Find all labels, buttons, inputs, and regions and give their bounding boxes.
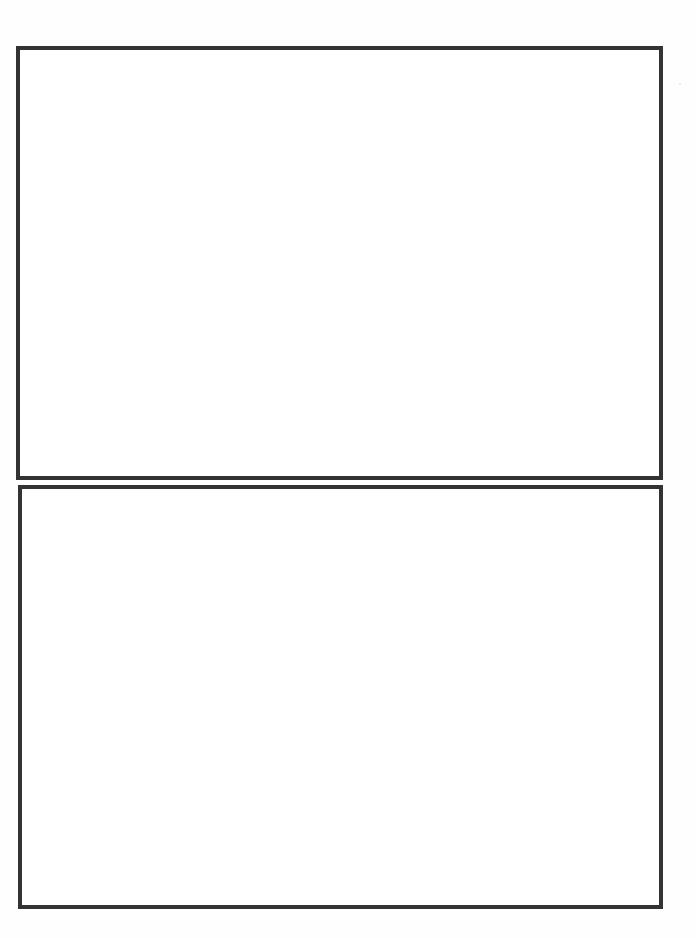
- document-page: [0, 0, 696, 938]
- empty-frame-bottom: [18, 485, 663, 909]
- empty-frame-top: [16, 46, 663, 480]
- scan-artifact: [679, 83, 681, 85]
